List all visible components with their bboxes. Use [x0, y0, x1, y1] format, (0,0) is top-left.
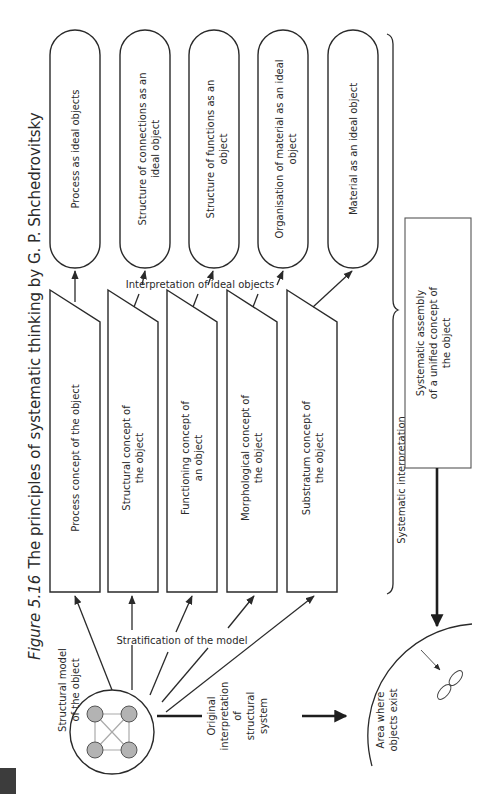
infinity-icon: [435, 668, 465, 701]
model-node: [121, 742, 137, 758]
model-node: [87, 742, 103, 758]
concept-substratum: Substratum concept of the object: [287, 290, 337, 592]
svg-text:of a unified concept of: of a unified concept of: [428, 286, 439, 399]
pill-organisation-material: Organisation of material as an ideal obj…: [258, 30, 308, 268]
pill-structure-connections: Structure of connections as an ideal obj…: [120, 30, 170, 268]
systematic-assembly-box: Systematic assembly of a unified concept…: [405, 218, 471, 468]
svg-text:interpretation: interpretation: [219, 682, 230, 751]
svg-text:Structure of functions as an: Structure of functions as an: [205, 80, 216, 219]
structural-model-label: Structural model: [57, 648, 68, 732]
figure-caption: Figure 5.16The principles of systematic …: [26, 112, 44, 660]
svg-text:object: object: [287, 134, 298, 165]
concept-structural: Structural concept of the object: [108, 290, 158, 592]
pill-material: Material as an ideal object: [328, 30, 378, 268]
concepts: Process concept of the object Structural…: [50, 290, 337, 592]
svg-text:Original: Original: [206, 696, 217, 735]
svg-text:the object: the object: [314, 433, 325, 483]
svg-text:ideal object: ideal object: [150, 120, 161, 178]
concept-functioning: Functioning concept of an object: [167, 290, 217, 592]
svg-text:system: system: [258, 698, 269, 734]
svg-text:Process as ideal objects: Process as ideal objects: [70, 89, 81, 208]
svg-text:Material as an ideal object: Material as an ideal object: [348, 83, 359, 215]
ideal-objects: Process as ideal objects Structure of co…: [50, 30, 378, 268]
pill-structure-functions: Structure of functions as an object: [189, 30, 239, 268]
svg-text:of: of: [232, 711, 243, 721]
area-label: Area where: [375, 692, 386, 749]
original-interpretation-label: Original interpretation of structural sy…: [206, 682, 269, 751]
svg-text:Process concept of the object: Process concept of the object: [70, 384, 81, 531]
svg-text:of the object: of the object: [70, 658, 81, 721]
svg-text:objects exist: objects exist: [388, 688, 399, 751]
pill-process: Process as ideal objects: [50, 30, 100, 268]
svg-text:Systematic assembly: Systematic assembly: [415, 290, 426, 396]
svg-text:structural: structural: [245, 692, 256, 740]
svg-text:Functioning concept of: Functioning concept of: [180, 401, 191, 515]
svg-text:object: object: [218, 134, 229, 165]
structural-model: [70, 690, 154, 774]
area-arrow: [421, 650, 440, 670]
svg-text:an object: an object: [193, 435, 204, 482]
interpretation-label: Interpretation of ideal objects: [126, 279, 274, 290]
svg-text:the object: the object: [441, 318, 452, 368]
svg-text:the object: the object: [134, 433, 145, 483]
page-tab: [0, 768, 16, 794]
svg-text:Structural concept of: Structural concept of: [121, 405, 132, 511]
svg-text:Morphological concept of: Morphological concept of: [240, 395, 251, 521]
svg-text:Substratum concept of: Substratum concept of: [301, 400, 312, 515]
diagram-canvas: Figure 5.16The principles of systematic …: [0, 0, 493, 794]
model-node: [87, 706, 103, 722]
svg-text:Structure of connections as an: Structure of connections as an: [137, 73, 148, 226]
concept-morphological: Morphological concept of the object: [227, 290, 277, 592]
svg-text:the object: the object: [253, 433, 264, 483]
concept-process: Process concept of the object: [50, 290, 100, 592]
stratification-label: Stratification of the model: [116, 635, 247, 646]
model-node: [121, 706, 137, 722]
svg-text:Organisation of material as an: Organisation of material as an ideal: [274, 59, 285, 238]
